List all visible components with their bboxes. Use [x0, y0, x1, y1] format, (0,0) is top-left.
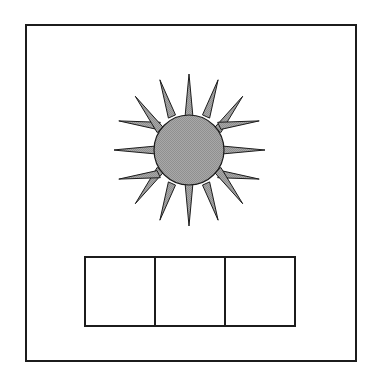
sun-icon [114, 62, 266, 236]
stimulus-area [27, 26, 359, 236]
page-root [0, 0, 379, 389]
answer-cell-3[interactable] [226, 258, 294, 325]
sun-core [154, 115, 224, 185]
answer-cell-2[interactable] [156, 258, 226, 325]
answer-cell-1[interactable] [86, 258, 156, 325]
outer-frame [25, 24, 357, 362]
answer-boxes-row [84, 256, 296, 327]
